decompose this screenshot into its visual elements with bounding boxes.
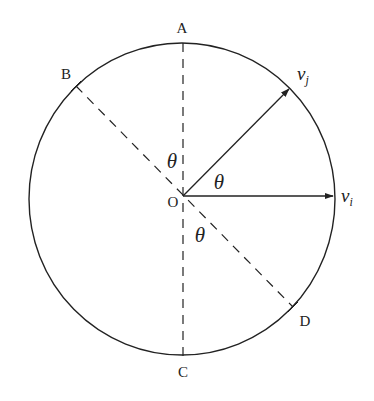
angle-label-cod: θ	[195, 223, 205, 247]
vector-label-vi: vi	[341, 185, 353, 209]
diagram-canvas: A B C D O θ θ θ vj vi	[0, 0, 374, 401]
point-label-a: A	[177, 20, 188, 36]
vector-label-vj: vj	[297, 63, 309, 87]
angle-label-aob: θ	[167, 149, 177, 173]
point-label-c: C	[178, 364, 188, 380]
point-label-d: D	[300, 313, 311, 329]
vector-vj-arrow	[183, 89, 289, 196]
angle-label-vi-vj: θ	[214, 170, 224, 194]
origin-label-o: O	[168, 194, 179, 210]
point-label-b: B	[61, 66, 71, 82]
